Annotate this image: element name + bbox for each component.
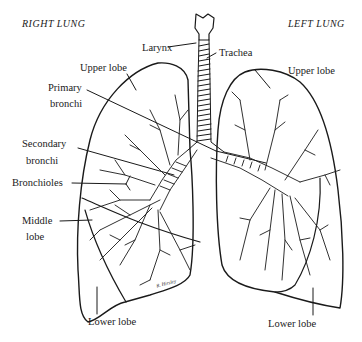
left-upper-lobe-label: Upper lobe bbox=[288, 65, 335, 77]
right-lung-title: RIGHT LUNG bbox=[22, 18, 85, 29]
left-lower-lobe-label: Lower lobe bbox=[268, 318, 316, 330]
trachea-label: Trachea bbox=[219, 47, 252, 59]
bronchioles-label: Bronchioles bbox=[12, 177, 63, 189]
bronchi-shape bbox=[90, 92, 340, 285]
primary-bronchi-label-line1: Primary bbox=[48, 82, 82, 94]
right-oblique-fissure bbox=[85, 210, 126, 302]
left-lung-outline bbox=[216, 69, 343, 308]
leader-lines bbox=[60, 43, 313, 315]
right-lower-lobe-label: Lower lobe bbox=[88, 316, 136, 328]
middle-lobe-label-line1: Middle bbox=[22, 215, 52, 227]
lung-diagram bbox=[0, 0, 362, 342]
right-upper-lobe-label: Upper lobe bbox=[80, 62, 127, 74]
larynx-label: Larynx bbox=[142, 42, 172, 54]
right-horizontal-fissure bbox=[82, 198, 200, 242]
secondary-bronchi-label-line2: bronchi bbox=[26, 155, 58, 167]
primary-bronchi-label-line2: bronchi bbox=[50, 98, 82, 110]
middle-lobe-label-line2: lobe bbox=[26, 231, 44, 243]
larynx-shape bbox=[195, 14, 214, 40]
left-lung-title: LEFT LUNG bbox=[288, 18, 345, 29]
secondary-bronchi-label-line1: Secondary bbox=[22, 138, 66, 150]
